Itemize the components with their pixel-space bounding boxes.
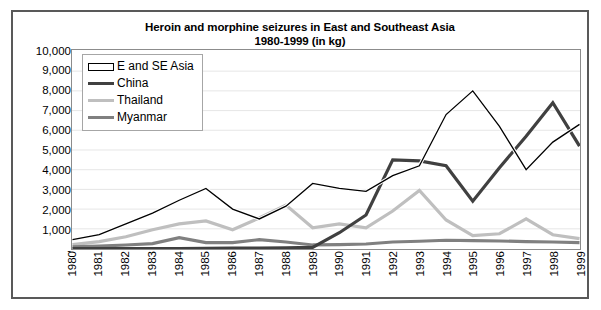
y-tick-label: 7,000 [13,104,71,116]
legend-item[interactable]: E and SE Asia [88,58,194,75]
x-tick-label: 1987 [253,251,265,277]
x-tick-label: 1980 [66,251,78,277]
chart-title: Heroin and morphine seizures in East and… [13,20,587,48]
x-tick-label: 1989 [307,251,319,277]
x-tick-label: 1986 [226,251,238,277]
legend-item[interactable]: Myanmar [88,109,194,126]
legend-swatch-icon [88,61,114,73]
x-tick-label: 1994 [441,251,453,277]
y-tick-label: 1,000 [13,224,71,236]
y-tick-label: 6,000 [13,124,71,136]
y-axis: 10,0009,0008,0007,0006,0005,0004,0003,00… [13,12,71,297]
legend-item-label: E and SE Asia [117,60,194,73]
x-tick-label: 1997 [521,251,533,277]
y-tick-label: 9,000 [13,64,71,76]
legend-swatch-icon [88,112,114,124]
y-tick-label: 2,000 [13,204,71,216]
x-tick-label: 1990 [333,251,345,277]
legend-swatch-icon [88,78,114,90]
legend-swatch-icon [88,95,114,107]
chart-title-line-2: 1980-1999 (in kg) [13,34,587,48]
y-tick-label: 8,000 [13,84,71,96]
series-line-thailand [72,190,579,244]
y-tick-label: 3,000 [13,184,71,196]
x-axis: 1980198119821983198419851986198719881989… [71,251,581,299]
x-tick-label: 1984 [173,251,185,277]
x-tick-label: 1993 [414,251,426,277]
y-tick-label: 10,000 [13,45,71,57]
legend-item-label: Thailand [117,94,163,107]
y-tick-label: - [13,244,71,256]
chart-frame: Heroin and morphine seizures in East and… [11,10,589,299]
chart-title-line-1: Heroin and morphine seizures in East and… [13,20,587,34]
x-tick-label: 1985 [199,251,211,277]
x-tick-label: 1991 [360,251,372,277]
legend-item[interactable]: Thailand [88,92,194,109]
legend-item-label: China [117,77,148,90]
x-tick-label: 1981 [92,251,104,277]
x-tick-label: 1998 [548,251,560,277]
x-tick-label: 1982 [119,251,131,277]
chart-legend: E and SE AsiaChinaThailandMyanmar [82,54,203,131]
x-tick-label: 1983 [146,251,158,277]
legend-item-label: Myanmar [117,111,167,124]
x-tick-label: 1996 [494,251,506,277]
x-tick-label: 1992 [387,251,399,277]
plot-area: E and SE AsiaChinaThailandMyanmar [71,49,581,250]
x-tick-label: 1995 [467,251,479,277]
legend-item[interactable]: China [88,75,194,92]
y-tick-label: 4,000 [13,164,71,176]
y-tick-label: 5,000 [13,144,71,156]
x-tick-label: 1999 [575,251,587,277]
x-tick-label: 1988 [280,251,292,277]
